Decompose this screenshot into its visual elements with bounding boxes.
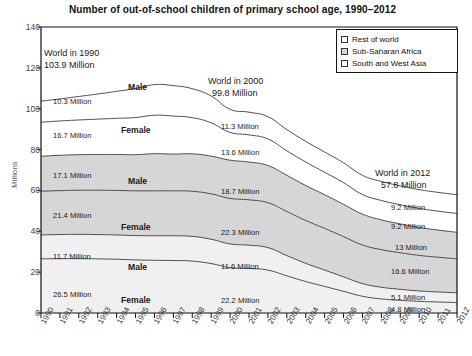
legend-label-rest-of-world: Rest of world: [352, 35, 399, 44]
annotation-world-2000-line1: World in 2000: [208, 76, 263, 86]
band-label-ssa-male: Male: [128, 176, 147, 186]
value-2000-ssa-male: 18.7 Million: [221, 187, 259, 196]
value-2000-rest-male: 11.3 Million: [221, 122, 259, 131]
y-axis-tick-140: 140: [6, 22, 40, 32]
y-axis-tick-60: 60: [6, 185, 40, 195]
value-1990-rest-female: 16.7 Million: [53, 131, 91, 140]
y-axis-tick-80: 80: [6, 145, 40, 155]
legend-item-south-and-west-asia[interactable]: South and West Asia: [341, 57, 453, 69]
band-label-swa-male: Male: [128, 262, 147, 272]
y-axis-tick-120: 120: [6, 63, 40, 73]
y-axis-tick-0: 0: [6, 308, 40, 318]
band-label-rest-male: Male: [128, 82, 147, 92]
value-1990-ssa-male: 17.1 Million: [53, 171, 91, 180]
legend-swatch-south-and-west-asia: [341, 60, 348, 67]
value-2000-swa-female: 22.2 Million: [221, 296, 259, 305]
legend-swatch-rest-of-world: [341, 36, 348, 43]
legend-label-sub-saharan-africa: Sub-Saharan Africa: [352, 47, 421, 56]
annotation-world-2000-line2: 99.8 Million: [212, 88, 258, 98]
value-2000-ssa-female: 22.3 Million: [221, 228, 259, 237]
annotation-world-1990-line1: World in 1990: [44, 48, 99, 58]
annotation-world-2012-line1: World in 2012: [375, 168, 430, 178]
y-axis-tick-100: 100: [6, 104, 40, 114]
y-axis-tick-20: 20: [6, 267, 40, 277]
value-2012-rest-female: 9.2 Million: [391, 222, 425, 231]
value-2000-swa-male: 11.6 Million: [221, 262, 259, 271]
value-2012-ssa-female: 16.6 Million: [391, 267, 429, 276]
y-axis-tick-40: 40: [6, 226, 40, 236]
value-1990-rest-male: 10.3 Million: [53, 97, 91, 106]
chart-title: Number of out-of-school children of prim…: [0, 4, 465, 15]
value-2012-swa-male: 5.1 Million: [391, 293, 425, 302]
y-axis-ticks: 020406080100120140: [0, 0, 40, 356]
band-label-swa-female: Female: [121, 295, 151, 305]
value-2012-rest-male: 9.2 Million: [391, 203, 425, 212]
annotation-world-1990-line2: 103.9 Million: [44, 60, 95, 70]
value-1990-swa-female: 26.5 Million: [53, 290, 91, 299]
value-1990-ssa-female: 21.4 Million: [53, 211, 91, 220]
value-2012-ssa-male: 13 Million: [395, 243, 427, 252]
annotation-world-2012-line2: 57.8 Million: [381, 180, 427, 190]
chart-legend: Rest of world Sub-Saharan Africa South a…: [336, 29, 458, 73]
band-label-ssa-female: Female: [121, 222, 151, 232]
legend-swatch-sub-saharan-africa: [341, 48, 348, 55]
value-2000-rest-female: 13.6 Million: [221, 148, 259, 157]
legend-item-sub-saharan-africa[interactable]: Sub-Saharan Africa: [341, 45, 453, 57]
legend-item-rest-of-world[interactable]: Rest of world: [341, 33, 453, 45]
value-1990-swa-male: 11.7 Million: [53, 252, 91, 261]
legend-label-south-and-west-asia: South and West Asia: [352, 59, 426, 68]
band-label-rest-female: Female: [121, 125, 151, 135]
